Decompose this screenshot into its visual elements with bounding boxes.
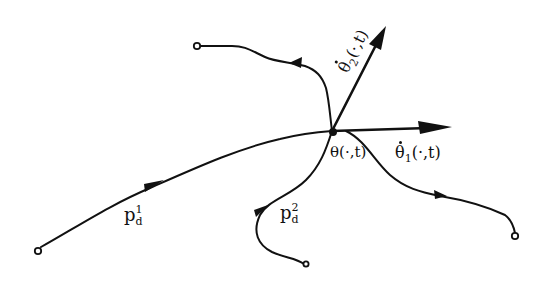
path-pd1	[41, 131, 332, 247]
endpoint-pd1-start	[35, 248, 41, 254]
label-theta-dot-1: θ1(·,t)	[395, 145, 441, 164]
label-theta-center-text: θ(·,t)	[330, 143, 366, 161]
diagram-drawing	[0, 0, 544, 282]
endpoint-pd2-start	[303, 261, 308, 266]
label-theta-dot-1-args: (·,t)	[412, 143, 441, 162]
path-pd2	[256, 131, 332, 264]
endpoint-lower-right	[512, 233, 518, 239]
label-theta-center: θ(·,t)	[330, 145, 366, 160]
center-point	[329, 128, 337, 136]
trajectory-diagram: θ(·,t) θ1(·,t) θ2(·,t) p1d p2d	[0, 0, 544, 282]
label-pd2: p2d	[280, 202, 299, 225]
path-pd1-arrow-icon	[144, 180, 164, 192]
label-theta-dot-1-sub: 1	[405, 152, 412, 165]
path-upper-left	[200, 46, 332, 131]
vector-theta-dot-1	[332, 128, 428, 131]
label-theta-dot-1-main: θ	[395, 145, 405, 161]
label-pd1: p1d	[124, 204, 143, 227]
label-pd1-sup: 1	[136, 204, 143, 216]
label-pd2-main: p	[280, 202, 292, 223]
label-pd2-sub: d	[292, 214, 299, 226]
label-pd2-sup: 2	[292, 202, 299, 214]
path-upper-left-arrow-icon	[289, 57, 302, 68]
endpoint-upper-left	[194, 43, 200, 49]
label-pd1-main: p	[124, 204, 136, 225]
vector-theta-dot-1-arrowhead-icon	[418, 121, 452, 134]
label-pd1-sub: d	[136, 216, 143, 228]
